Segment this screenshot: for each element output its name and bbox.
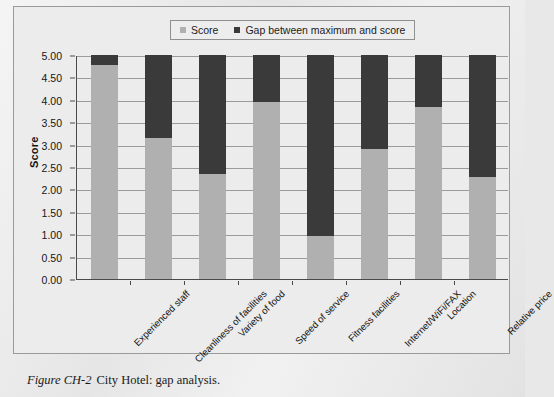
y-axis-tick-label: 1.50 [42,207,62,219]
legend-label-score: Score [191,24,218,36]
figure-number: Figure CH-2 [27,373,91,387]
legend-swatch-gap [234,27,240,33]
plot-area-wrapper [76,56,508,280]
y-axis-tick-mark [70,145,75,146]
gridline [77,213,508,214]
bar-segment-gap[interactable] [307,55,334,236]
y-axis-tick-mark [70,190,75,191]
bar-column[interactable] [91,55,118,279]
bar-column[interactable] [469,55,496,279]
y-axis-tick-mark [70,235,75,236]
y-axis-tick-label: 2.50 [42,162,62,174]
y-axis-tick-label: 2.00 [42,184,62,196]
gridline [77,56,508,57]
x-axis-category-label: Fitness facilities [346,288,402,344]
y-axis-tick-label: 3.50 [42,117,62,129]
x-axis-labels: Experienced staffCleanliness of faciliti… [76,281,508,361]
y-axis-tick-mark [70,123,75,124]
bar-column[interactable] [361,55,388,279]
bar-column[interactable] [253,55,280,279]
bar-column[interactable] [199,55,226,279]
x-axis-tick-mark [238,281,239,285]
y-axis-tick-mark [70,168,75,169]
x-axis-category-label: Experienced staff [132,288,192,348]
gridline [77,258,508,259]
y-axis-tick-label: 3.00 [42,140,62,152]
y-axis-labels: 5.004.504.003.503.002.502.001.501.000.50… [14,50,70,280]
y-axis-tick-mark [70,78,75,79]
y-axis-tick-label: 1.00 [42,229,62,241]
x-axis-tick-mark [346,281,347,285]
gridline [77,123,508,124]
y-axis-tick-mark [70,257,75,258]
y-axis-tick-mark [70,280,75,281]
bar-segment-gap[interactable] [469,55,496,177]
bar-segment-gap[interactable] [415,55,442,107]
bar-column[interactable] [415,55,442,279]
plot-area [76,56,508,280]
x-axis-category-label: Speed of service [293,288,351,346]
legend-entry-gap: Gap between maximum and score [234,24,405,36]
chart-legend: Score Gap between maximum and score [170,20,415,40]
y-axis-tick-label: 0.00 [42,274,62,286]
x-axis-tick-mark [454,281,455,285]
legend-label-gap: Gap between maximum and score [245,24,405,36]
bar-segment-gap[interactable] [253,55,280,102]
bar-segment-score[interactable] [415,107,442,279]
gridline [77,78,508,79]
figure-caption: Figure CH-2City Hotel: gap analysis. [27,373,220,388]
bar-segment-score[interactable] [307,236,334,279]
gridline [77,168,508,169]
legend-swatch-score [180,27,186,33]
x-axis-tick-mark [292,281,293,285]
figure-caption-text: City Hotel: gap analysis. [96,373,220,387]
bar-segment-score[interactable] [91,65,118,279]
gridline [77,101,508,102]
bar-column[interactable] [145,55,172,279]
legend-entry-score: Score [180,24,218,36]
x-axis-tick-mark [184,281,185,285]
x-axis-tick-mark [400,281,401,285]
y-axis-tick-mark [70,212,75,213]
bar-segment-gap[interactable] [91,55,118,65]
y-axis-tick-mark [70,100,75,101]
gridline [77,146,508,147]
x-axis-tick-mark [130,281,131,285]
y-axis-tick-label: 0.50 [42,252,62,264]
y-axis-tick-label: 4.50 [42,72,62,84]
bar-segment-score[interactable] [361,149,388,279]
bar-segment-score[interactable] [469,177,496,279]
y-axis-tick-label: 5.00 [42,50,62,62]
bar-segment-gap[interactable] [361,55,388,149]
x-axis-category-label: Cleanliness of facilities [192,288,268,364]
bar-segment-score[interactable] [199,174,226,279]
y-axis-tick-label: 4.00 [42,95,62,107]
y-axis-tick-mark [70,56,75,57]
gridline [77,190,508,191]
bar-segment-gap[interactable] [199,55,226,174]
bar-segment-score[interactable] [145,138,172,279]
bar-segment-gap[interactable] [145,55,172,138]
x-axis-category-label: Relative price [505,288,554,337]
gridline [77,235,508,236]
bar-segment-score[interactable] [253,102,280,279]
chart-frame: Score Gap between maximum and score Scor… [13,6,510,354]
bar-column[interactable] [307,55,334,279]
